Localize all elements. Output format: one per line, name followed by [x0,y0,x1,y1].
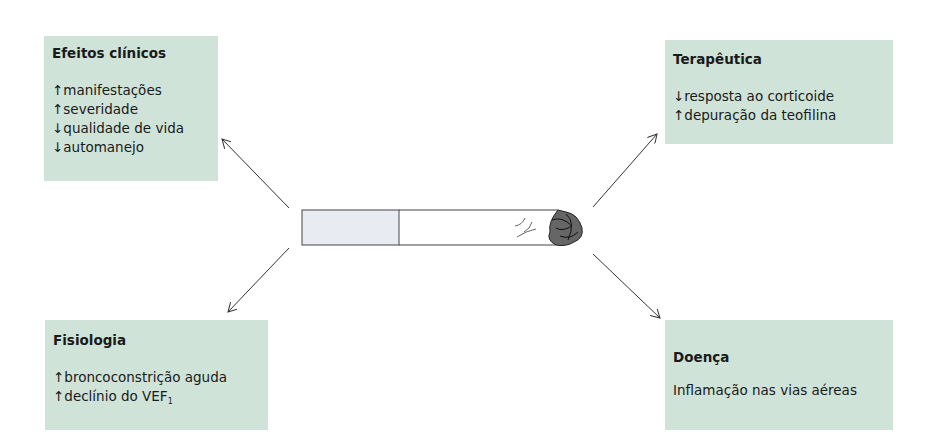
fisiologia-box: Fisiologia ↑broncoconstrição aguda ↑decl… [45,320,268,430]
doenca-box: Doença Inflamação nas vias aéreas [665,320,893,430]
arrow-to-fisiologia [228,248,289,312]
fisiologia-line: ↑broncoconstrição aguda [53,368,260,387]
efeitos-line: ↑manifestações [52,81,210,100]
doenca-title: Doença [673,348,885,367]
fisiologia-line: ↑declínio do VEF1 [53,387,260,411]
arrow-to-efeitos [222,139,289,208]
terapeutica-box: Terapêutica ↓resposta ao corticoide ↑dep… [665,40,893,144]
subscript: 1 [168,397,173,406]
arrow-to-terapeutica [593,134,657,207]
fisiologia-title: Fisiologia [53,331,260,350]
efeitos-clinicos-title: Efeitos clínicos [52,44,210,63]
efeitos-line: ↓automanejo [52,138,210,157]
efeitos-line: ↑severidade [52,100,210,119]
arrow-to-doenca [593,254,660,318]
fisiologia-line-text: ↑declínio do VEF [53,388,168,404]
doenca-line: Inflamação nas vias aéreas [673,381,885,400]
terapeutica-line: ↓resposta ao corticoide [673,87,885,106]
terapeutica-line: ↑depuração da teofilina [673,106,885,125]
cigarette-icon [302,210,582,246]
efeitos-line: ↓qualidade de vida [52,119,210,138]
terapeutica-title: Terapêutica [673,50,885,69]
efeitos-clinicos-box: Efeitos clínicos ↑manifestações ↑severid… [44,36,218,181]
